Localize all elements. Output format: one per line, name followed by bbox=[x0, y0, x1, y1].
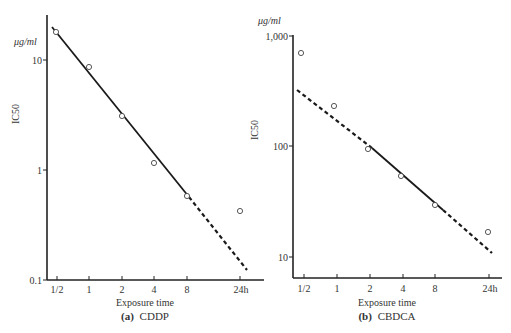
x-tick-label: 2 bbox=[368, 283, 373, 294]
data-point bbox=[184, 193, 189, 198]
caption-drug: CBDCA bbox=[378, 310, 416, 322]
data-point bbox=[237, 208, 242, 213]
y-tick-label: 10 bbox=[278, 252, 288, 263]
x-tick-label: 2 bbox=[120, 284, 125, 295]
data-point bbox=[298, 50, 303, 55]
x-tick-label: 1 bbox=[335, 283, 340, 294]
data-point bbox=[398, 173, 403, 178]
data-point bbox=[485, 229, 490, 234]
fit-line-solid bbox=[52, 27, 189, 197]
data-point bbox=[119, 113, 124, 118]
data-point bbox=[331, 103, 336, 108]
x-tick-label: 8 bbox=[433, 283, 438, 294]
data-point bbox=[432, 202, 437, 207]
x-tick-label: 24h bbox=[483, 283, 498, 294]
y-unit-label: μg/ml bbox=[13, 36, 37, 47]
y-axis-title: IC50 bbox=[10, 104, 21, 124]
x-tick-label: 24h bbox=[234, 284, 249, 295]
fit-line-solid bbox=[372, 148, 443, 210]
panel-caption: (b) CBDCA bbox=[358, 310, 415, 323]
x-tick-label: 4 bbox=[152, 284, 157, 295]
y-tick-label: 1,000 bbox=[266, 31, 289, 42]
x-tick-label: 1/2 bbox=[51, 284, 64, 295]
x-tick-label: 1/2 bbox=[298, 283, 311, 294]
y-axis-title: IC50 bbox=[249, 120, 260, 140]
caption-tag: (b) bbox=[358, 310, 372, 323]
fit-line-dashed-left bbox=[297, 90, 372, 148]
panel-caption: (a) CDDP bbox=[121, 310, 169, 323]
y-tick-label: 1 bbox=[37, 165, 42, 176]
x-tick-label: 4 bbox=[401, 283, 406, 294]
data-point bbox=[86, 64, 91, 69]
fit-line-dashed-right bbox=[443, 210, 492, 253]
y-tick-label: 0.1 bbox=[30, 275, 43, 286]
caption-drug: CDDP bbox=[140, 310, 169, 322]
data-point bbox=[53, 29, 58, 34]
x-tick-label: 8 bbox=[185, 284, 190, 295]
x-tick-label: 1 bbox=[87, 284, 92, 295]
data-point bbox=[365, 146, 370, 151]
y-tick-label: 10 bbox=[32, 55, 42, 66]
panel-a-cddp: μg/ml 10 1 0.1 IC50 1/2 1 2 4 8 24h Expo… bbox=[10, 15, 264, 323]
figure: μg/ml 10 1 0.1 IC50 1/2 1 2 4 8 24h Expo… bbox=[0, 0, 511, 333]
x-axis-title: Exposure time bbox=[358, 297, 417, 308]
caption-tag: (a) bbox=[121, 310, 134, 323]
y-unit-label: μg/ml bbox=[257, 15, 281, 26]
y-tick-label: 100 bbox=[273, 141, 288, 152]
panel-b-cbdca: μg/ml 1,000 100 10 IC50 1/2 1 2 4 8 24h … bbox=[249, 15, 502, 323]
data-point bbox=[151, 160, 156, 165]
x-axis-title: Exposure time bbox=[116, 297, 175, 308]
fit-line-dashed bbox=[189, 197, 247, 270]
